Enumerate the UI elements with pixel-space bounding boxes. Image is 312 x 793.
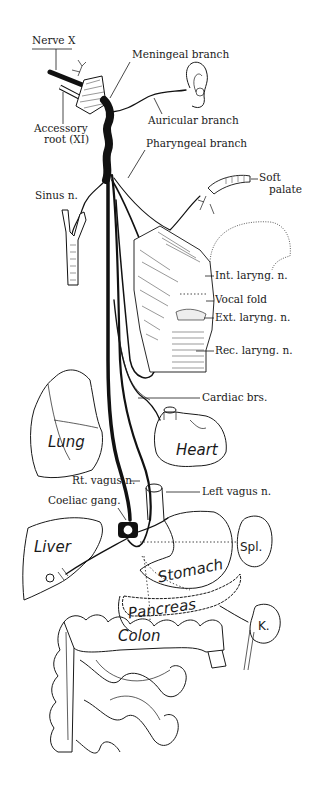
label-pharyngeal-branch: Pharyngeal branch <box>146 137 247 149</box>
vagus-ganglion <box>104 100 110 180</box>
label-vocal-fold: Vocal fold <box>214 293 267 305</box>
label-soft-palate-2: palate <box>269 183 302 195</box>
pharyngeal-branch-nerve <box>114 178 200 230</box>
renal-branch-nerve <box>220 606 248 622</box>
lung <box>31 370 103 478</box>
label-left-vagus-n: Left vagus n. <box>202 485 271 497</box>
label-sinus-n: Sinus n. <box>35 189 78 201</box>
label-rec-laryng-n: Rec. laryng. n. <box>215 344 293 356</box>
soft-palate <box>198 175 250 214</box>
small-intestine <box>76 660 186 753</box>
nerve-x-label-group: Nerve X <box>32 34 76 70</box>
meningeal-leader <box>110 62 130 98</box>
meningeal-twig <box>72 60 86 76</box>
coeliac-ganglion <box>118 522 138 538</box>
hepatic-branch-nerve <box>66 538 128 574</box>
label-meningeal-branch: Meningeal branch <box>132 48 229 60</box>
label-kidney: K. <box>258 619 270 633</box>
label-auricular-branch: Auricular branch <box>147 114 239 126</box>
label-pancreas: Pancreas <box>127 595 197 622</box>
label-colon: Colon <box>118 627 161 645</box>
auricular-leader <box>154 98 162 114</box>
label-cardiac-brs: Cardiac brs. <box>202 391 267 403</box>
label-int-laryng-n: Int. laryng. n. <box>215 269 288 281</box>
ear-illustration <box>186 62 207 107</box>
label-spleen: Spl. <box>240 540 262 554</box>
vagus-nerve-diagram: Nerve X Accessory root (XI) Meningeal br… <box>0 0 312 793</box>
tongue-outline <box>210 222 290 270</box>
label-lung: Lung <box>48 433 85 451</box>
label-ext-laryng-n: Ext. laryng. n. <box>215 311 290 323</box>
label-coeliac-gang: Coeliac gang. <box>48 494 121 506</box>
carotid-bifurcation <box>62 210 86 285</box>
label-nerve-x: Nerve X <box>32 34 76 46</box>
label-rt-vagus-n: Rt. vagus n. <box>72 474 135 486</box>
kidney <box>244 604 280 670</box>
pharyngeal-leader <box>128 150 145 178</box>
label-accessory-root-2: root (XI) <box>44 133 89 145</box>
pharynx-larynx <box>134 226 214 372</box>
label-soft-palate-1: Soft <box>259 171 281 183</box>
coeliac-leader <box>118 508 126 520</box>
auricular-branch-nerve <box>112 90 186 112</box>
label-liver: Liver <box>34 538 72 556</box>
label-heart: Heart <box>176 441 219 459</box>
